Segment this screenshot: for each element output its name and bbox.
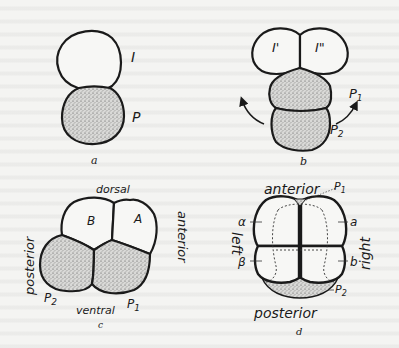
cell-a xyxy=(301,196,346,246)
axis-posterior: posterior xyxy=(253,305,318,321)
label-P1: P1 xyxy=(127,297,140,313)
caption-c: c xyxy=(98,320,103,330)
label-b: b xyxy=(350,255,358,269)
label-beta: β xyxy=(237,255,246,269)
label-I: I xyxy=(131,49,135,65)
axis-left: left xyxy=(229,232,245,255)
caption-d: d xyxy=(296,326,302,337)
panel-d: anterior posterior left right α a β b P1… xyxy=(229,180,373,337)
panel-b: I' I" P1 P2 b xyxy=(242,28,363,168)
axis-anterior: anterior xyxy=(264,181,321,197)
cell-I xyxy=(57,31,121,91)
label-alpha: α xyxy=(238,215,246,229)
label-B: B xyxy=(87,214,95,228)
label-I-double-prime: I" xyxy=(315,40,325,55)
rotation-arrow-left xyxy=(242,100,264,124)
embryo-cleavage-figure: I P a I' I" P1 P2 b dorsal ventral poste… xyxy=(0,0,399,348)
cell-beta xyxy=(255,246,299,283)
label-P2: P2 xyxy=(330,122,344,139)
panel-a: I P a xyxy=(57,31,141,167)
cell-P xyxy=(62,87,124,145)
caption-a: a xyxy=(91,154,98,167)
label-I-prime: I' xyxy=(272,40,279,55)
label-P1: P1 xyxy=(334,180,346,195)
panel-c: dorsal ventral posterior anterior B A P2… xyxy=(22,183,190,330)
caption-b: b xyxy=(300,155,307,168)
label-a: a xyxy=(350,215,357,229)
label-P: P xyxy=(132,109,141,125)
axis-anterior: anterior xyxy=(175,211,190,264)
label-A: A xyxy=(133,212,142,226)
cell-alpha xyxy=(254,196,299,246)
label-P2: P2 xyxy=(44,291,57,307)
axis-posterior: posterior xyxy=(22,235,37,296)
label-P2: P2 xyxy=(335,283,347,298)
cell-b xyxy=(301,246,345,283)
rotation-arrow-right xyxy=(336,104,356,124)
axis-dorsal: dorsal xyxy=(96,183,130,196)
axis-ventral: ventral xyxy=(76,304,115,317)
label-P1: P1 xyxy=(349,86,363,103)
cell-P2 xyxy=(272,108,331,151)
axis-right: right xyxy=(357,237,373,270)
